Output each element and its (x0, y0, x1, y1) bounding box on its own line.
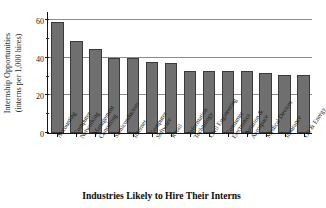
y-axis-tick-label: 0 (28, 130, 44, 139)
y-axis-title-line-1: Internship Opportunities (3, 33, 14, 113)
y-axis-tick-labels: 0204060 (26, 0, 44, 208)
x-axis-tick-labels: AccountingComputerNetworkingManagementCo… (47, 134, 312, 186)
y-axis-tick-label: 40 (28, 54, 44, 63)
y-axis-title: Internship Opportunities (interns per 1,… (3, 33, 24, 113)
y-axis-tick-label: 20 (28, 92, 44, 101)
y-axis-title-line-2: (interns per 1,000 hires) (13, 33, 24, 113)
y-axis-title-wrapper: Internship Opportunities (interns per 1,… (0, 8, 26, 138)
y-axis-tick-label: 60 (28, 17, 44, 26)
bar (51, 22, 63, 133)
x-axis-title: Industries Likely to Hire Their Interns (0, 190, 323, 201)
